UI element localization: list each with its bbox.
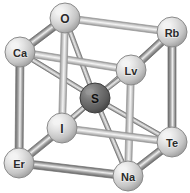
atom-er[interactable]: Er bbox=[4, 148, 34, 178]
atom-na[interactable]: Na bbox=[113, 161, 143, 191]
atom-label-lv: Lv bbox=[125, 65, 139, 77]
atom-label-ca: Ca bbox=[13, 47, 28, 59]
crystal-lattice-figure: ORbCaLvSITeErNa bbox=[0, 0, 190, 193]
bond-o-i bbox=[59, 18, 69, 128]
atom-s[interactable]: S bbox=[80, 83, 110, 113]
atom-te[interactable]: Te bbox=[157, 127, 187, 157]
bond-rb-te bbox=[168, 32, 176, 142]
bond-lv-na bbox=[125, 70, 135, 176]
atom-label-i: I bbox=[60, 122, 63, 136]
atom-label-te: Te bbox=[166, 137, 178, 149]
atom-i[interactable]: I bbox=[47, 113, 77, 143]
atom-label-er: Er bbox=[13, 158, 25, 170]
atom-label-rb: Rb bbox=[165, 27, 180, 39]
atom-label-na: Na bbox=[121, 171, 136, 183]
atom-rb[interactable]: Rb bbox=[157, 17, 187, 47]
lattice-canvas: ORbCaLvSITeErNa bbox=[0, 0, 190, 193]
bond-er-na bbox=[19, 159, 129, 180]
atom-o[interactable]: O bbox=[50, 3, 80, 33]
bond-ca-er bbox=[15, 52, 24, 163]
atom-label-o: O bbox=[60, 12, 69, 26]
atom-lv[interactable]: Lv bbox=[116, 55, 146, 85]
atom-ca[interactable]: Ca bbox=[5, 37, 35, 67]
atom-layer: ORbCaLvSITeErNa bbox=[4, 3, 187, 191]
atom-label-s: S bbox=[91, 92, 99, 106]
bond-o-rb bbox=[65, 15, 173, 36]
